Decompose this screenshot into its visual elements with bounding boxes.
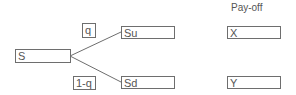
payoff-down: Y xyxy=(227,76,281,89)
node-root: S xyxy=(15,49,71,63)
node-up: Su xyxy=(121,26,175,39)
payoff-up: X xyxy=(227,26,281,39)
probability-down: 1-q xyxy=(73,76,96,90)
probability-up: q xyxy=(82,23,96,38)
node-down: Sd xyxy=(121,76,175,89)
payoff-header: Pay-off xyxy=(231,2,263,13)
